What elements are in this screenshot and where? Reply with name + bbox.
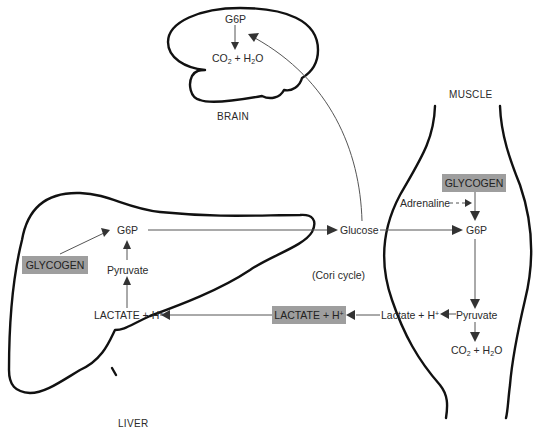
arrowhead: [452, 225, 463, 235]
brain-co2-h2o-label: CO2 + H2O: [212, 52, 263, 64]
arrowhead: [470, 299, 480, 309]
adrenaline-label: Adrenaline: [400, 197, 450, 209]
arrowhead: [248, 33, 259, 42]
arrowhead: [346, 310, 355, 320]
plus-h-text: + H: [471, 344, 491, 356]
liver-g6p-label: G6P: [117, 224, 138, 236]
cori-cycle-label: (Cori cycle): [312, 269, 365, 281]
muscle-pyruvate-label: Pyruvate: [456, 309, 497, 321]
cori-cycle-diagram: [0, 0, 548, 439]
muscle-lactate-sup: +: [435, 310, 439, 317]
arrowhead: [470, 211, 480, 221]
muscle-glycogen-box: GLYCOGEN: [442, 174, 506, 192]
o-text: O: [494, 344, 502, 356]
muscle-lactate-label: Lactate + H+: [381, 309, 439, 321]
muscle-g6p-label: G6P: [466, 224, 487, 236]
plus-h-text: + H: [232, 52, 252, 64]
liver-outline: [9, 193, 314, 393]
liver-glycogen-box: GLYCOGEN: [22, 256, 88, 274]
muscle-outline-left: [384, 106, 447, 418]
muscle-organ-label: MUSCLE: [449, 89, 492, 100]
blood-lactate-text: LACTATE + H: [274, 309, 339, 321]
liver-lactate-text: LACTATE + H: [94, 309, 159, 321]
brain-organ-label: BRAIN: [217, 111, 249, 122]
liver-glycogen-to-g6p-arrow: [60, 233, 104, 254]
arrowhead: [465, 199, 472, 207]
co-text: CO: [212, 52, 228, 64]
arrowhead: [123, 276, 131, 285]
muscle-co2-h2o-label: CO2 + H2O: [451, 344, 502, 356]
arrowhead: [231, 42, 239, 50]
arrowhead: [440, 309, 449, 319]
blood-lactate-box: LACTATE + H+: [272, 306, 346, 324]
glucose-to-brain-arrow: [255, 38, 362, 221]
brain-g6p-label: G6P: [225, 13, 246, 25]
glucose-label: Glucose: [340, 224, 379, 236]
arrowhead: [327, 225, 338, 235]
arrowhead: [470, 332, 480, 342]
muscle-outline-right: [500, 106, 531, 418]
liver-pyruvate-label: Pyruvate: [107, 264, 148, 276]
co-text: CO: [451, 344, 467, 356]
muscle-lactate-text: Lactate + H: [381, 309, 435, 321]
liver-lactate-label: LACTATE + H+: [94, 309, 163, 321]
arrowhead: [123, 240, 131, 249]
liver-organ-label: LIVER: [118, 418, 148, 429]
arrowhead: [101, 228, 110, 237]
liver-lactate-sup: +: [159, 310, 163, 317]
o-text: O: [255, 52, 263, 64]
blood-lactate-sup: +: [340, 310, 344, 317]
liver-notch: [112, 368, 116, 375]
